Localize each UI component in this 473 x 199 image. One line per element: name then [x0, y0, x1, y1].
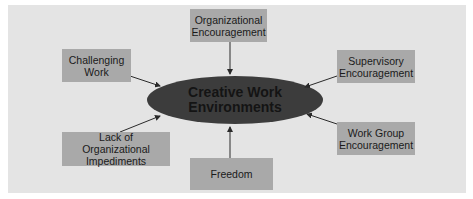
node-label: Organizational Encouragement — [191, 14, 265, 38]
node-label: Work Group Encouragement — [339, 127, 413, 151]
node-label: Freedom — [210, 168, 252, 180]
node-work-group-encouragement: Work Group Encouragement — [337, 122, 415, 155]
node-organizational-encouragement: Organizational Encouragement — [190, 9, 267, 42]
node-label: Supervisory Encouragement — [339, 55, 413, 79]
node-lack-of-organizational-impediments: Lack of Organizational Impediments — [62, 132, 170, 166]
node-freedom: Freedom — [190, 158, 273, 190]
center-label: Creative Work Environments — [147, 76, 323, 124]
node-supervisory-encouragement: Supervisory Encouragement — [337, 50, 415, 83]
node-label: Challenging Work — [69, 54, 124, 78]
node-challenging-work: Challenging Work — [62, 49, 131, 82]
node-label: Lack of Organizational Impediments — [65, 131, 167, 167]
